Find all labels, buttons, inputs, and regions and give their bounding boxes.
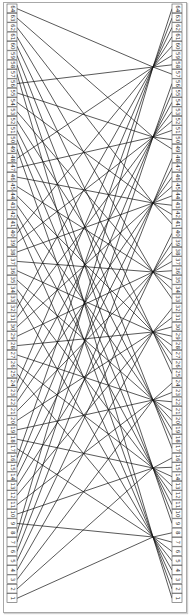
hub-to-right-line — [153, 533, 172, 537]
right-box-label: 2 — [174, 587, 180, 591]
right-box-label: 27 — [174, 351, 180, 358]
left-box-label: 13 — [9, 483, 15, 490]
right-box-45: 45 — [172, 182, 182, 191]
left-to-hub-line — [17, 449, 153, 537]
right-box-label: 39 — [174, 239, 180, 246]
left-box-10: 10 — [7, 509, 17, 518]
left-box-49: 49 — [7, 144, 17, 153]
left-box-label: 53 — [9, 108, 15, 115]
left-box-label: 45 — [9, 183, 15, 190]
left-box-label: 31 — [9, 314, 15, 321]
permutation-diagram: 1234567891011121314151617181920212223242… — [0, 0, 189, 615]
left-box-label: 60 — [9, 43, 15, 50]
left-box-label: 49 — [9, 146, 15, 153]
left-box-label: 9 — [9, 522, 15, 526]
left-box-61: 61 — [7, 32, 17, 41]
right-box-label: 16 — [174, 454, 180, 461]
right-box-4: 4 — [172, 566, 182, 575]
right-box-41: 41 — [172, 219, 182, 228]
right-box-25: 25 — [172, 369, 182, 378]
right-box-label: 33 — [174, 295, 180, 302]
left-box-label: 42 — [9, 211, 15, 218]
left-to-hub-line — [17, 205, 153, 400]
right-box-47: 47 — [172, 163, 182, 172]
right-box-11: 11 — [172, 500, 182, 509]
right-box-label: 56 — [174, 80, 180, 87]
right-box-label: 13 — [174, 483, 180, 490]
right-box-60: 60 — [172, 41, 182, 50]
hub-to-right-line — [153, 537, 172, 580]
left-box-label: 24 — [9, 380, 15, 387]
right-box-51: 51 — [172, 126, 182, 135]
right-box-54: 54 — [172, 98, 182, 107]
hub-to-right-line — [153, 9, 172, 67]
left-to-hub-line — [17, 537, 153, 598]
left-to-hub-line — [17, 355, 153, 400]
left-box-64: 64 — [7, 4, 17, 13]
right-box-label: 24 — [174, 380, 180, 387]
right-box-label: 19 — [174, 426, 180, 433]
left-box-18: 18 — [7, 435, 17, 444]
left-box-label: 50 — [9, 136, 15, 143]
left-box-3: 3 — [7, 575, 17, 584]
left-to-hub-line — [17, 74, 153, 537]
left-to-hub-line — [17, 55, 153, 400]
right-box-39: 39 — [172, 238, 182, 247]
left-box-label: 41 — [9, 220, 15, 227]
right-box-2: 2 — [172, 584, 182, 593]
left-box-31: 31 — [7, 313, 17, 322]
right-box-12: 12 — [172, 491, 182, 500]
right-box-59: 59 — [172, 51, 182, 60]
left-box-12: 12 — [7, 491, 17, 500]
right-box-label: 15 — [174, 464, 180, 471]
hub-to-right-line — [153, 537, 172, 598]
left-box-label: 58 — [9, 61, 15, 68]
left-box-57: 57 — [7, 70, 17, 79]
right-box-62: 62 — [172, 23, 182, 32]
left-box-26: 26 — [7, 360, 17, 369]
right-box-label: 37 — [174, 258, 180, 265]
left-box-label: 56 — [9, 80, 15, 87]
left-to-hub-line — [17, 9, 153, 67]
right-box-label: 25 — [174, 370, 180, 377]
left-box-label: 30 — [9, 323, 15, 330]
hub-to-right-line — [153, 400, 172, 430]
right-box-label: 7 — [174, 540, 180, 544]
left-box-label: 47 — [9, 164, 15, 171]
left-to-hub-line — [17, 332, 153, 495]
right-box-52: 52 — [172, 116, 182, 125]
right-box-3: 3 — [172, 575, 182, 584]
left-to-hub-line — [17, 468, 153, 589]
right-box-label: 8 — [174, 531, 180, 535]
right-box-38: 38 — [172, 247, 182, 256]
right-box-label: 43 — [174, 202, 180, 209]
left-to-hub-line — [17, 18, 153, 137]
left-box-1: 1 — [7, 594, 17, 603]
left-box-label: 61 — [9, 33, 15, 40]
right-box-36: 36 — [172, 266, 182, 275]
left-box-16: 16 — [7, 453, 17, 462]
left-box-label: 36 — [9, 267, 15, 274]
left-box-56: 56 — [7, 79, 17, 88]
right-box-label: 54 — [174, 99, 180, 106]
left-box-11: 11 — [7, 500, 17, 509]
left-box-label: 4 — [9, 568, 15, 572]
left-to-hub-line — [17, 271, 153, 332]
right-box-label: 40 — [174, 230, 180, 237]
left-box-47: 47 — [7, 163, 17, 172]
right-box-10: 10 — [172, 509, 182, 518]
right-box-label: 11 — [174, 501, 180, 508]
left-box-6: 6 — [7, 547, 17, 556]
hub-to-right-line — [153, 137, 172, 149]
left-box-46: 46 — [7, 172, 17, 181]
right-box-61: 61 — [172, 32, 182, 41]
left-box-label: 19 — [9, 426, 15, 433]
left-box-label: 6 — [9, 550, 15, 554]
right-box-label: 21 — [174, 408, 180, 415]
left-box-label: 5 — [9, 559, 15, 563]
left-box-32: 32 — [7, 304, 17, 313]
left-box-15: 15 — [7, 463, 17, 472]
left-box-label: 57 — [9, 71, 15, 78]
right-box-label: 48 — [174, 155, 180, 162]
right-box-label: 32 — [174, 305, 180, 312]
